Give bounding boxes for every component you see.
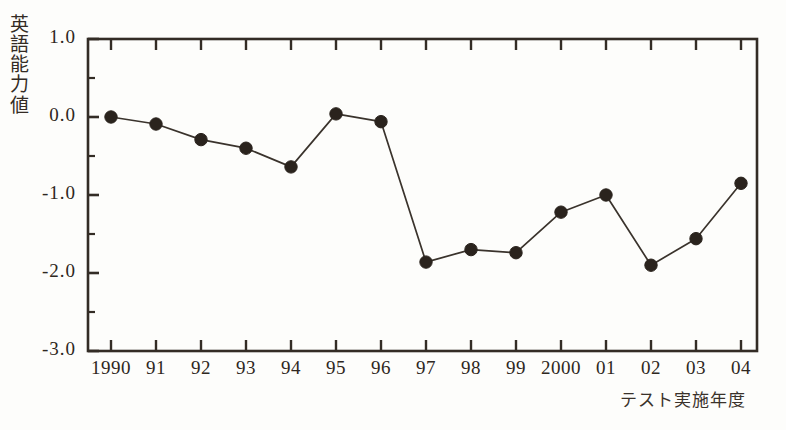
data-point-marker	[600, 189, 612, 201]
data-point-marker	[465, 243, 477, 255]
plot-area	[0, 0, 786, 430]
data-point-marker	[510, 247, 522, 259]
data-point-marker	[690, 232, 702, 244]
chart-figure: 英 語 能 力 値 1.00.0-1.0-2.0-3.0 19909192939…	[0, 0, 786, 430]
data-point-marker	[555, 206, 567, 218]
data-point-marker	[285, 161, 297, 173]
data-point-marker	[420, 256, 432, 268]
data-point-marker	[150, 118, 162, 130]
data-point-marker	[240, 142, 252, 154]
data-point-marker	[105, 111, 117, 123]
data-point-marker	[195, 133, 207, 145]
data-point-marker	[735, 177, 747, 189]
data-point-marker	[375, 115, 387, 127]
axis-ticks	[88, 39, 741, 351]
data-point-marker	[645, 259, 657, 271]
data-point-markers	[105, 108, 747, 272]
axes-frame	[88, 39, 757, 351]
data-point-marker	[330, 108, 342, 120]
